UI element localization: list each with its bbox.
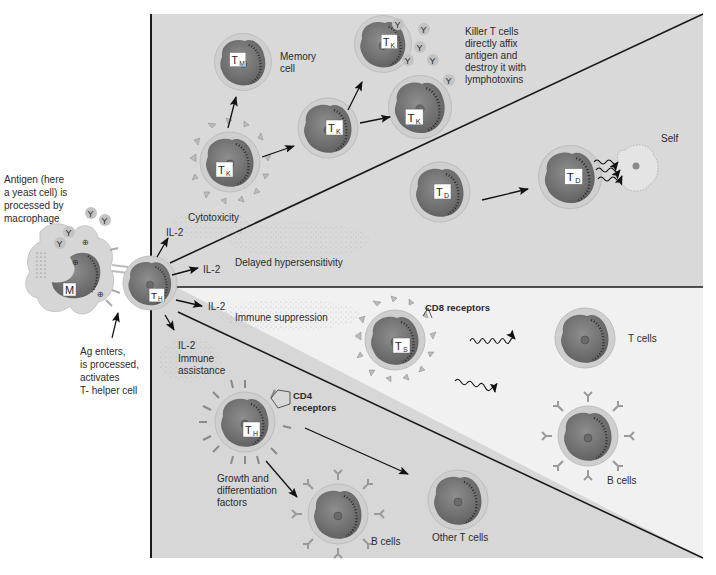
svg-text:receptors: receptors <box>293 402 336 413</box>
b-cells-label-assistance: B cells <box>371 536 400 547</box>
ag-enters-arrow <box>112 313 118 338</box>
svg-text:directly affix: directly affix <box>465 38 518 49</box>
svg-text:⊕: ⊕ <box>72 258 79 267</box>
pathway-immune-suppression: Immune suppression <box>235 312 328 323</box>
svg-text:Y: Y <box>421 25 427 35</box>
svg-text:T: T <box>328 122 335 134</box>
il2-label-suppression: IL-2 <box>208 301 226 312</box>
svg-text:cell: cell <box>280 63 295 74</box>
svg-text:differentiation: differentiation <box>217 485 277 496</box>
svg-text:Ag enters,: Ag enters, <box>80 346 126 357</box>
killer-t-cell: T K <box>389 76 452 139</box>
svg-text:T: T <box>218 164 225 176</box>
svg-text:T- helper cell: T- helper cell <box>80 385 137 396</box>
memory-cell-label: Memory <box>280 51 316 62</box>
svg-text:Y: Y <box>430 56 436 66</box>
svg-text:Y: Y <box>446 76 452 86</box>
svg-text:factors: factors <box>217 497 247 508</box>
svg-text:H: H <box>158 295 163 302</box>
svg-text:Y: Y <box>417 43 423 53</box>
other-t-cells-label: Other T cells <box>432 532 488 543</box>
svg-text:assistance: assistance <box>178 365 226 376</box>
svg-text:Y: Y <box>66 228 72 238</box>
svg-text:Y: Y <box>57 239 63 249</box>
macrophage-label: M <box>65 284 74 296</box>
t-helper-cell: T H <box>123 256 177 310</box>
immune-response-diagram: Antigen (here a yeast cell) is processed… <box>0 0 716 575</box>
svg-text:D: D <box>444 192 449 199</box>
t-cell-target <box>555 308 615 368</box>
il2-label-cytotoxicity: IL-2 <box>166 227 184 238</box>
il2-label-assistance: IL-2 <box>178 340 196 351</box>
svg-text:T: T <box>407 112 414 124</box>
svg-text:T: T <box>436 186 443 198</box>
svg-text:T: T <box>383 37 390 48</box>
pathway-delayed-hypersensitivity: Delayed hypersensitivity <box>235 257 343 268</box>
killer-t-cells-note: Killer T cells <box>465 26 519 37</box>
svg-text:T: T <box>395 340 402 352</box>
svg-text:antigen and: antigen and <box>465 50 517 61</box>
svg-text:K: K <box>391 42 396 49</box>
svg-text:K: K <box>336 128 341 135</box>
svg-text:T: T <box>245 424 252 436</box>
memory-t-cell: T M <box>215 34 272 91</box>
cd4-receptors-label: CD4 <box>293 390 313 401</box>
delayed-t-cell-active: T D <box>539 146 602 209</box>
ag-enters-description: Ag enters, is processed, activates T- he… <box>80 346 139 396</box>
cd8-receptors-label: CD8 receptors <box>425 302 490 313</box>
svg-text:T: T <box>232 55 239 66</box>
other-t-cell <box>428 470 488 530</box>
il2-label-delayed: IL-2 <box>203 264 221 275</box>
svg-text:T: T <box>151 290 157 301</box>
svg-text:T: T <box>567 171 574 183</box>
svg-text:macrophage: macrophage <box>4 213 60 224</box>
svg-text:K: K <box>416 117 421 126</box>
svg-text:S: S <box>403 346 408 353</box>
t-cells-label: T cells <box>628 333 657 344</box>
pathway-cytotoxicity: Cytotoxicity <box>188 212 239 223</box>
svg-text:destroy it with: destroy it with <box>465 62 526 73</box>
svg-text:a yeast cell) is: a yeast cell) is <box>4 187 67 198</box>
svg-text:Y: Y <box>405 56 411 66</box>
svg-text:D: D <box>575 176 580 185</box>
svg-text:lymphotoxins: lymphotoxins <box>465 74 523 85</box>
antigen-description: Antigen (here a yeast cell) is processed… <box>4 174 67 224</box>
svg-text:Antigen (here: Antigen (here <box>4 174 64 185</box>
svg-text:activates: activates <box>80 372 119 383</box>
svg-text:processed by: processed by <box>4 200 63 211</box>
svg-text:Y: Y <box>395 20 401 30</box>
svg-text:H: H <box>253 430 258 437</box>
growth-factors-label: Growth and <box>217 473 269 484</box>
self-label: Self <box>661 133 678 144</box>
svg-text:Y: Y <box>102 216 108 226</box>
pathway-immune-assistance: Immune <box>178 353 215 364</box>
svg-text:is processed,: is processed, <box>80 359 139 370</box>
b-cells-label-suppression: B cells <box>607 475 636 486</box>
delayed-t-cell: T D <box>410 162 470 222</box>
svg-text:K: K <box>226 170 231 177</box>
processed-antigen-icon: ⊕ <box>82 238 89 247</box>
svg-text:Y: Y <box>88 209 94 219</box>
svg-text:M: M <box>239 60 245 67</box>
svg-text:⊕: ⊕ <box>97 290 104 299</box>
